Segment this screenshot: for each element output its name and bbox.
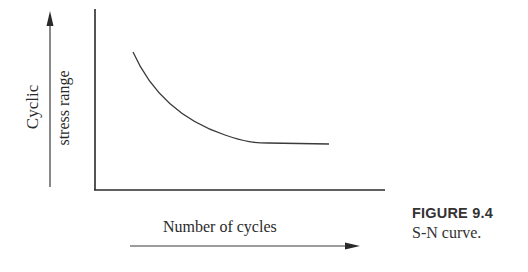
sn-curve	[133, 52, 329, 144]
figure-caption: S-N curve.	[412, 224, 481, 242]
figure-number: FIGURE 9.4	[412, 205, 493, 221]
arrow-up-icon	[47, 11, 54, 26]
y-axis-label-line2: stress range	[54, 58, 74, 158]
y-axis-label-line1: Cyclic	[22, 62, 44, 152]
x-axis-label: Number of cycles	[163, 218, 277, 236]
arrow-right-icon	[345, 243, 360, 250]
